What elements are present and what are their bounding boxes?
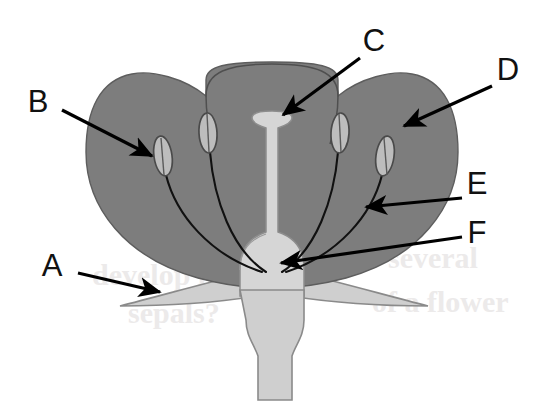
label-c: C [363, 23, 385, 58]
flower-diagram: develop in sepals? several of a flower [0, 0, 544, 413]
label-b: B [28, 84, 49, 119]
flower-cross-section-svg: develop in sepals? several of a flower [0, 0, 544, 413]
pedicel-group [240, 290, 304, 400]
label-e: E [467, 166, 488, 201]
label-a: A [42, 248, 63, 283]
pedicel [240, 290, 304, 400]
label-d: D [497, 52, 519, 87]
label-f: F [468, 215, 487, 250]
